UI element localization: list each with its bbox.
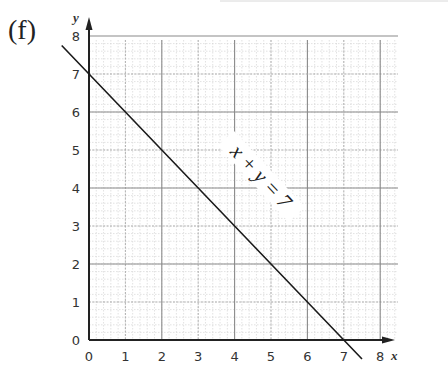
svg-text:0: 0 [85, 349, 93, 364]
svg-text:8: 8 [72, 29, 80, 44]
svg-text:0: 0 [72, 333, 80, 348]
svg-text:8: 8 [376, 349, 384, 364]
graph-figure: (f) 012345678012345678yx x + y = 7 [0, 0, 448, 372]
svg-text:2: 2 [158, 349, 166, 364]
svg-text:5: 5 [267, 349, 275, 364]
line-series [62, 46, 362, 360]
svg-text:4: 4 [72, 181, 80, 196]
svg-text:y: y [71, 10, 79, 25]
svg-text:1: 1 [121, 349, 129, 364]
svg-text:4: 4 [230, 349, 238, 364]
svg-text:1: 1 [72, 295, 80, 310]
svg-text:7: 7 [72, 67, 80, 82]
equation-label: x + y = 7 [217, 130, 305, 222]
svg-text:6: 6 [72, 105, 80, 120]
svg-text:3: 3 [72, 219, 80, 234]
svg-text:2: 2 [72, 257, 80, 272]
svg-text:5: 5 [72, 143, 80, 158]
grid-lines [89, 36, 398, 340]
svg-text:x: x [390, 348, 398, 363]
plot-area: 012345678012345678yx x + y = 7 [0, 0, 448, 372]
svg-text:3: 3 [194, 349, 202, 364]
svg-text:7: 7 [340, 349, 348, 364]
svg-text:6: 6 [303, 349, 311, 364]
